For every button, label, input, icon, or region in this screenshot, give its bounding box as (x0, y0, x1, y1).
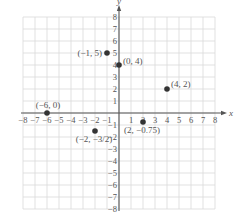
x-tick-label: −6 (42, 115, 51, 125)
y-tick-label: 3 (113, 72, 117, 82)
y-tick-label: −4 (108, 156, 118, 166)
y-tick-label: −7 (108, 192, 117, 202)
x-axis-arrow-icon (221, 111, 227, 115)
data-point (104, 50, 110, 56)
x-axis-label: x (228, 108, 233, 118)
y-tick-label: −1 (108, 120, 117, 130)
x-tick-label: −2 (90, 115, 99, 125)
data-point-label: (4, 2) (171, 79, 191, 89)
data-point-label: (−1, 5) (77, 48, 102, 58)
x-tick-label: 5 (177, 115, 181, 125)
y-tick-label: −3 (108, 144, 117, 154)
y-tick-label: 8 (113, 12, 117, 22)
x-tick-label: −4 (66, 115, 76, 125)
y-tick-label: −8 (108, 204, 117, 214)
data-point-label: (−6, 0) (36, 100, 61, 110)
y-tick-label: 5 (113, 48, 117, 58)
data-point (164, 86, 170, 92)
data-point (140, 119, 146, 125)
y-tick-label: 2 (113, 84, 117, 94)
x-tick-label: −8 (18, 115, 27, 125)
x-tick-label: −7 (30, 115, 39, 125)
x-tick-label: 1 (129, 115, 133, 125)
data-point-label: (2, −0.75) (124, 125, 160, 135)
y-tick-label: 6 (113, 36, 117, 46)
y-tick-label: −5 (108, 168, 117, 178)
x-tick-label: 4 (165, 115, 170, 125)
y-axis-label: y (116, 0, 121, 6)
x-tick-label: −3 (78, 115, 87, 125)
x-tick-label: 7 (201, 115, 205, 125)
y-tick-label: 7 (113, 24, 117, 34)
x-tick-label: −5 (54, 115, 63, 125)
data-point-label: (−2, −3/2) (76, 134, 113, 144)
x-tick-label: 3 (153, 115, 157, 125)
data-point (92, 128, 98, 134)
data-point (116, 62, 122, 68)
coordinate-plane: xy −8−7−6−5−4−3−2−112345678−8−7−6−5−4−3−… (0, 0, 244, 224)
y-tick-label: 1 (113, 96, 117, 106)
x-tick-label: 8 (213, 115, 217, 125)
x-tick-label: 6 (189, 115, 193, 125)
y-tick-label: −6 (108, 180, 117, 190)
data-point (44, 110, 50, 116)
data-point-label: (0, 4) (123, 56, 143, 66)
